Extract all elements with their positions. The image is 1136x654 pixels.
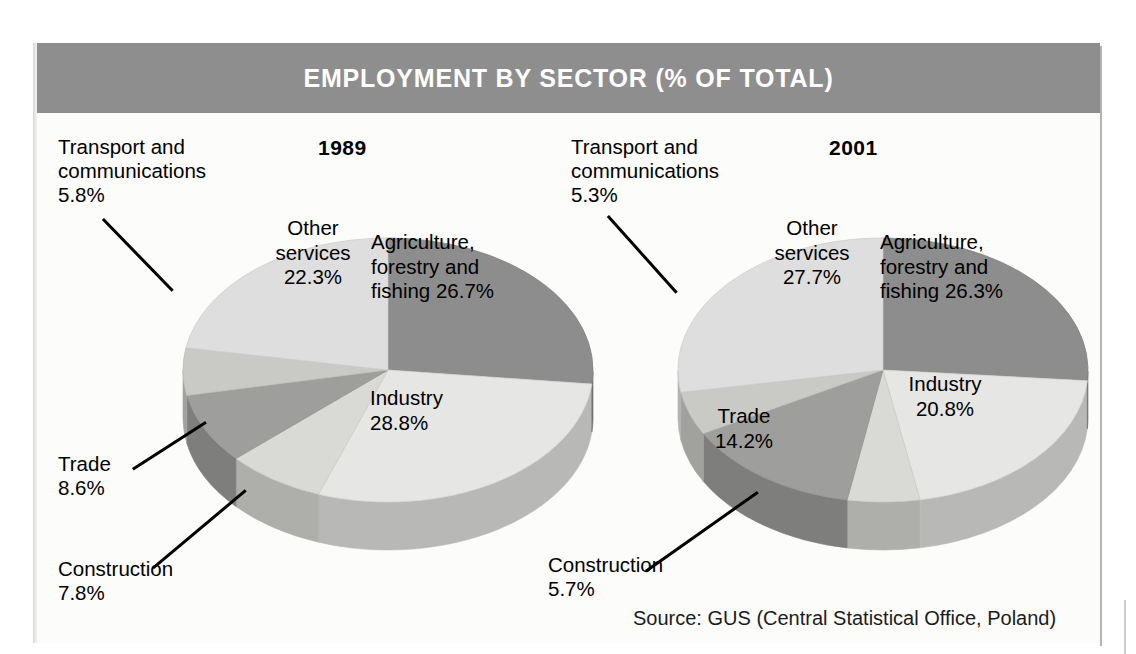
chart-year-2001: 2001: [829, 136, 878, 160]
figure-root: EMPLOYMENT BY SECTOR (% OF TOTAL) 1989 T…: [0, 0, 1136, 654]
page-title: EMPLOYMENT BY SECTOR (% OF TOTAL): [303, 64, 833, 93]
callout-construction-2001: Construction 5.7%: [548, 553, 663, 601]
slice-label-industry-2001: Industry 20.8%: [880, 372, 1010, 421]
slice-label-other-services-1989: Other services 22.3%: [255, 216, 371, 290]
slice-label-trade-2001: Trade 14.2%: [684, 404, 804, 453]
slice-label-industry-1989: Industry 28.8%: [370, 386, 520, 435]
slice-label-other-services-2001: Other services 27.7%: [754, 216, 870, 290]
title-banner: EMPLOYMENT BY SECTOR (% OF TOTAL): [37, 43, 1100, 113]
source-note: Source: GUS (Central Statistical Office,…: [633, 607, 1056, 630]
callout-transport-1989: Transport and communications 5.8%: [58, 135, 206, 207]
slice-label-agriculture-1989: Agriculture, forestry and fishing 26.7%: [371, 230, 551, 304]
callout-transport-2001: Transport and communications 5.3%: [571, 135, 719, 207]
slice-label-agriculture-2001: Agriculture, forestry and fishing 26.3%: [880, 230, 1070, 304]
page-edge-rule: [1124, 600, 1126, 654]
callout-trade-1989: Trade 8.6%: [58, 452, 111, 500]
chart-year-1989: 1989: [318, 136, 367, 160]
